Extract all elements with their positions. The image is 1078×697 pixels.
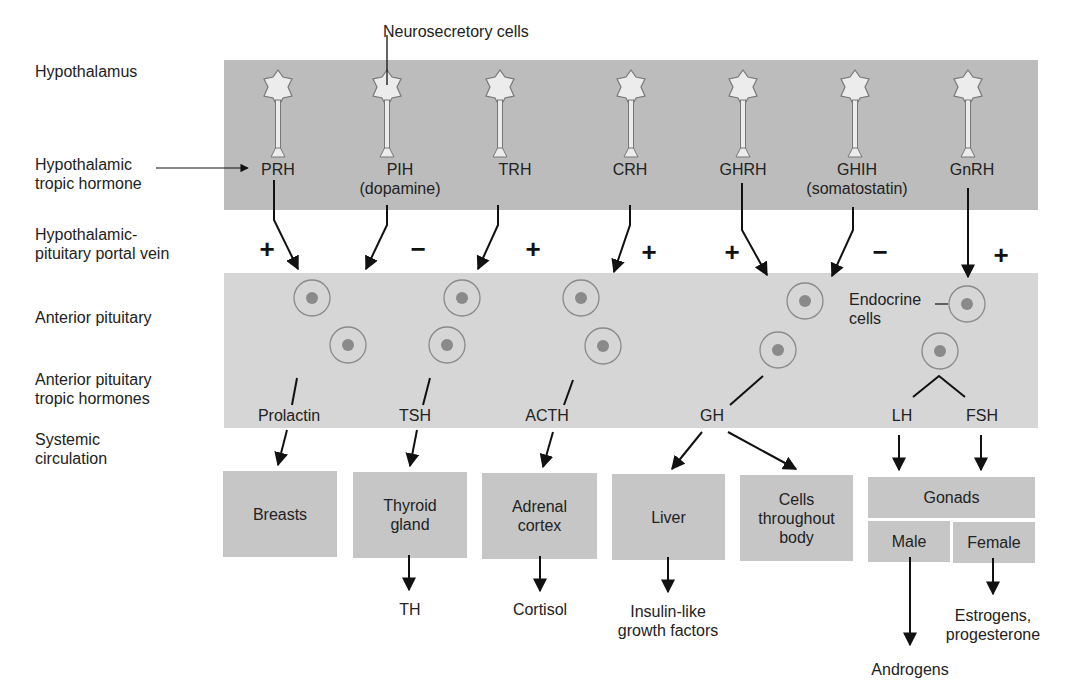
hormone-prh: PRH bbox=[261, 160, 295, 179]
label-systemic-circulation: Systemic circulation bbox=[35, 430, 107, 468]
effect-sign-ghih: − bbox=[872, 239, 887, 265]
label-anterior-pituitary-tropic-hormones: Anterior pituitary tropic hormones bbox=[35, 370, 152, 408]
hormone-acth: ACTH bbox=[525, 406, 569, 425]
target-breasts: Breasts bbox=[223, 471, 337, 557]
hypothalamus-band bbox=[224, 60, 1038, 210]
output-estrogens-progesterone: Estrogens, progesterone bbox=[946, 606, 1040, 644]
output-th: TH bbox=[399, 600, 420, 619]
hormone-pih: PIH (dopamine) bbox=[360, 160, 441, 198]
hormone-gnrh: GnRH bbox=[950, 160, 994, 179]
target-thyroid-gland: Thyroidgland bbox=[353, 472, 467, 558]
effect-sign-prh: + bbox=[259, 236, 274, 262]
hormone-prolactin: Prolactin bbox=[258, 406, 320, 425]
effect-sign-crh: + bbox=[641, 239, 656, 265]
hormone-trh: TRH bbox=[499, 160, 532, 179]
target-liver: Liver bbox=[612, 474, 725, 560]
target-gonads-male: Male bbox=[868, 521, 950, 562]
label-endocrine-cells: Endocrine cells bbox=[849, 290, 921, 328]
output-cortisol: Cortisol bbox=[513, 600, 567, 619]
hormone-gh: GH bbox=[700, 406, 724, 425]
target-gonads-female: Female bbox=[953, 522, 1035, 563]
effect-sign-gnrh: + bbox=[993, 242, 1008, 268]
hormone-ghrh: GHRH bbox=[719, 160, 766, 179]
effect-sign-pih: − bbox=[410, 236, 425, 262]
output-igf: Insulin-like growth factors bbox=[618, 602, 718, 640]
hormone-lh: LH bbox=[892, 406, 912, 425]
effect-sign-trh: + bbox=[525, 236, 540, 262]
label-neurosecretory-cells: Neurosecretory cells bbox=[383, 22, 529, 41]
output-androgens: Androgens bbox=[871, 660, 948, 679]
target-adrenal-cortex: Adrenalcortex bbox=[482, 473, 597, 559]
hormone-crh: CRH bbox=[613, 160, 648, 179]
label-anterior-pituitary: Anterior pituitary bbox=[35, 308, 152, 327]
label-hypothalamic-tropic-hormone: Hypothalamic tropic hormone bbox=[35, 155, 142, 193]
hormone-ghih: GHIH (somatostatin) bbox=[806, 160, 907, 198]
target-gonads: Gonads bbox=[868, 477, 1035, 518]
target-cells-throughout-body: Cellsthroughoutbody bbox=[740, 475, 853, 561]
effect-sign-ghrh: + bbox=[724, 239, 739, 265]
hormone-tsh: TSH bbox=[399, 406, 431, 425]
hormone-fsh: FSH bbox=[966, 406, 998, 425]
label-portal-vein: Hypothalamic- pituitary portal vein bbox=[35, 225, 169, 263]
label-hypothalamus: Hypothalamus bbox=[35, 62, 137, 81]
